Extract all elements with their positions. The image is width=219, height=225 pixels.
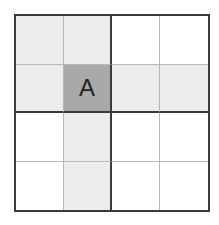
- cell-r4-c4[interactable]: [160, 162, 208, 211]
- cell-r3-c3[interactable]: [112, 113, 160, 162]
- cell-r2-c3[interactable]: [112, 65, 160, 114]
- cell-r1-c3[interactable]: [112, 16, 160, 65]
- cell-r1-c1[interactable]: [16, 16, 64, 65]
- cell-r3-c2[interactable]: [64, 113, 112, 162]
- cell-r4-c1[interactable]: [16, 162, 64, 211]
- cell-r1-c4[interactable]: [160, 16, 208, 65]
- cell-r2-c1[interactable]: [16, 65, 64, 114]
- cell-r2-c4[interactable]: [160, 65, 208, 114]
- cell-r1-c2[interactable]: [64, 16, 112, 65]
- cell-r4-c3[interactable]: [112, 162, 160, 211]
- cell-r3-c1[interactable]: [16, 113, 64, 162]
- cell-r4-c2[interactable]: [64, 162, 112, 211]
- selected-cell[interactable]: A: [64, 65, 112, 114]
- sudoku-grid: A: [14, 14, 210, 212]
- cell-r3-c4[interactable]: [160, 113, 208, 162]
